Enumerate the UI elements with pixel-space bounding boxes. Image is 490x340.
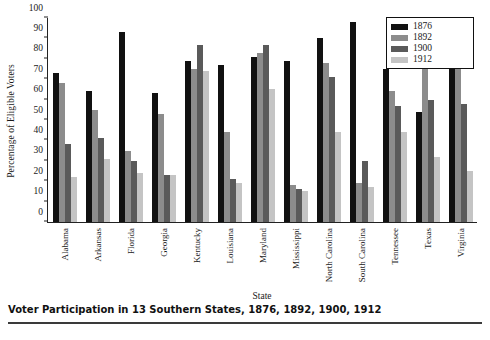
x-tick-label: Virginia <box>456 228 465 257</box>
y-tick-mark <box>44 78 48 79</box>
y-tick-mark <box>44 139 48 140</box>
bar-group <box>148 18 181 222</box>
legend-entry: 1912 <box>391 54 469 65</box>
bar-1912 <box>236 183 242 222</box>
y-tick-mark <box>44 119 48 120</box>
bar-group <box>312 18 345 222</box>
x-tick: Louisiana <box>213 226 246 288</box>
legend-entry: 1892 <box>391 32 469 43</box>
bar-1912 <box>71 177 77 222</box>
x-tick-label: North Carolina <box>324 228 333 282</box>
chart-figure: Percentage of Eligible Voters 0102030405… <box>0 0 490 340</box>
y-tick-label: 60 <box>34 85 44 95</box>
bar-group <box>82 18 115 222</box>
legend-entry: 1900 <box>391 43 469 54</box>
x-tick-label: Alabama <box>60 228 69 260</box>
y-tick-mark <box>44 98 48 99</box>
x-axis-title: State <box>47 291 477 301</box>
bar-1912 <box>137 173 143 222</box>
x-tick: Arkansas <box>81 226 114 288</box>
x-tick: Virginia <box>444 226 477 288</box>
y-tick-mark <box>44 57 48 58</box>
x-tick: Florida <box>114 226 147 288</box>
bar-1912 <box>467 171 473 222</box>
bar-group <box>115 18 148 222</box>
bar-1912 <box>335 132 341 222</box>
x-tick-label: Texas <box>423 228 432 249</box>
y-tick-label: 80 <box>34 45 44 55</box>
x-tick: Tennessee <box>378 226 411 288</box>
legend-label: 1900 <box>413 44 432 54</box>
y-axis-title-text: Percentage of Eligible Voters <box>6 64 16 178</box>
y-tick-mark <box>44 37 48 38</box>
x-tick: Maryland <box>246 226 279 288</box>
bar-group <box>181 18 214 222</box>
x-axis-ticks: AlabamaArkansasFloridaGeorgiaKentuckyLou… <box>48 226 477 288</box>
y-tick-label: 30 <box>34 147 44 157</box>
bar-1912 <box>434 157 440 222</box>
x-tick-label: Mississippi <box>291 228 300 269</box>
x-tick-label: Kentucky <box>192 228 201 263</box>
y-tick-label: 10 <box>34 187 44 197</box>
x-tick: North Carolina <box>312 226 345 288</box>
y-tick-label: 70 <box>34 65 44 75</box>
y-tick-mark <box>44 159 48 160</box>
x-tick: Kentucky <box>180 226 213 288</box>
bar-1912 <box>203 71 209 222</box>
y-tick-label: 20 <box>34 167 44 177</box>
bar-1912 <box>368 187 374 222</box>
x-tick-label: Arkansas <box>93 228 102 262</box>
x-tick-label: Louisiana <box>225 228 234 264</box>
y-tick-label: 100 <box>29 4 43 14</box>
bar-group <box>247 18 280 222</box>
y-tick-mark <box>44 221 48 222</box>
bar-1912 <box>302 191 308 222</box>
y-tick-label: 90 <box>34 24 44 34</box>
x-tick: Georgia <box>147 226 180 288</box>
bar-1912 <box>104 159 110 222</box>
x-tick-label: Georgia <box>159 228 168 257</box>
legend-entry: 1876 <box>391 21 469 32</box>
bar-1912 <box>269 89 275 222</box>
x-tick-label: Florida <box>126 228 135 254</box>
y-tick-label: 50 <box>34 106 44 116</box>
legend-swatch <box>391 24 408 30</box>
x-tick: Alabama <box>48 226 81 288</box>
bar-group <box>345 18 378 222</box>
legend-label: 1876 <box>413 22 432 32</box>
caption-rule <box>8 322 482 324</box>
legend: 1876189219001912 <box>386 17 474 69</box>
y-axis-title: Percentage of Eligible Voters <box>4 18 18 223</box>
legend-label: 1892 <box>413 33 432 43</box>
bar-1912 <box>401 132 407 222</box>
x-tick-label: South Carolina <box>357 228 366 282</box>
legend-label: 1912 <box>413 55 432 65</box>
legend-swatch <box>391 35 408 41</box>
y-tick-label: 0 <box>38 208 43 218</box>
bar-group <box>49 18 82 222</box>
y-tick-mark <box>44 200 48 201</box>
bar-group <box>279 18 312 222</box>
x-tick: Mississippi <box>279 226 312 288</box>
legend-swatch <box>391 57 408 63</box>
y-tick-label: 40 <box>34 126 44 136</box>
x-tick-label: Maryland <box>258 228 267 263</box>
y-tick-mark <box>44 180 48 181</box>
legend-swatch <box>391 46 408 52</box>
x-tick: South Carolina <box>345 226 378 288</box>
y-tick-mark <box>44 17 48 18</box>
figure-caption: Voter Participation in 13 Southern State… <box>8 304 482 315</box>
bar-group <box>214 18 247 222</box>
x-tick: Texas <box>411 226 444 288</box>
x-tick-label: Tennessee <box>390 228 399 265</box>
bar-1912 <box>170 175 176 222</box>
